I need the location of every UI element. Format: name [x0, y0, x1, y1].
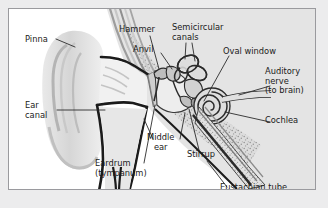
label-oval-window: Oval window — [223, 47, 276, 57]
label-middle-ear: Middle ear — [147, 133, 174, 152]
ear-cross-section-illustration — [9, 9, 315, 189]
label-auditory-nerve: Auditory nerve (to brain) — [265, 67, 304, 96]
ear-canal-floor — [97, 102, 147, 107]
label-ear-canal: Ear canal — [25, 101, 47, 120]
label-stirrup: Stirrup — [187, 150, 215, 160]
ear-diagram-panel: Pinna Ear canal Hammer Anvil Semicircula… — [8, 8, 316, 190]
label-anvil: Anvil — [133, 45, 153, 55]
label-cochlea: Cochlea — [265, 116, 298, 126]
label-eustachian-tube: Eustachian tube — [220, 183, 287, 190]
label-semicircular-canals: Semicircular canals — [172, 23, 223, 42]
label-pinna: Pinna — [25, 35, 48, 45]
label-hammer: Hammer — [119, 25, 155, 35]
label-eardrum: Eardrum (tympanum) — [95, 159, 147, 178]
